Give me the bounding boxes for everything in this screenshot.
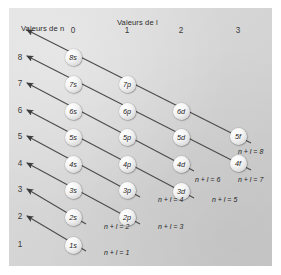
- orbital-label: 8s: [69, 53, 77, 62]
- orbital-node-3p[interactable]: 3p: [119, 182, 136, 199]
- diagonal-arrow-nl5: [27, 110, 194, 198]
- orbital-label: 4s: [69, 160, 77, 169]
- vertical-axis-title: Valeurs de n: [21, 24, 64, 33]
- orbital-node-4s[interactable]: 4s: [65, 156, 82, 173]
- row-header-8: 8: [14, 53, 26, 62]
- orbital-label: 5s: [69, 133, 77, 142]
- row-header-4: 4: [14, 159, 26, 168]
- nl-sum-label-4: n + l = 4: [158, 196, 183, 203]
- aufbau-diagram-figure: Valeurs de n Valeurs de l 0 1 2 3 8 7 6 …: [0, 0, 281, 275]
- orbital-label: 3p: [123, 186, 131, 195]
- orbital-node-8s[interactable]: 8s: [65, 49, 82, 66]
- orbital-node-6p[interactable]: 6p: [119, 103, 136, 120]
- row-header-5: 5: [14, 132, 26, 141]
- orbital-label: 2s: [69, 213, 77, 222]
- orbital-node-1s[interactable]: 1s: [65, 237, 82, 254]
- orbital-node-6d[interactable]: 6d: [173, 103, 190, 120]
- nl-sum-label-8: n + l = 8: [238, 148, 263, 155]
- diagonal-arrow-group: [27, 30, 251, 251]
- diagonal-arrow-nl7: [27, 56, 251, 170]
- orbital-label: 7p: [123, 80, 131, 89]
- nl-sum-label-2: n + l = 2: [104, 223, 129, 230]
- orbital-node-5d[interactable]: 5d: [173, 129, 190, 146]
- nl-sum-label-6: n + l = 6: [195, 176, 220, 183]
- orbital-label: 4d: [177, 160, 185, 169]
- orbital-label: 2p: [123, 213, 131, 222]
- orbital-node-4p[interactable]: 4p: [119, 156, 136, 173]
- orbital-label: 1s: [69, 241, 77, 250]
- orbital-node-5s[interactable]: 5s: [65, 129, 82, 146]
- orbital-label: 4f: [235, 159, 241, 168]
- orbital-label: 3d: [177, 187, 185, 196]
- row-header-2: 2: [14, 212, 26, 221]
- column-header-3: 3: [231, 26, 245, 35]
- row-header-1: 1: [14, 240, 26, 249]
- orbital-node-4d[interactable]: 4d: [173, 156, 190, 173]
- orbital-label: 5p: [123, 133, 131, 142]
- orbital-node-2s[interactable]: 2s: [65, 209, 82, 226]
- orbital-node-4f[interactable]: 4f: [230, 155, 247, 172]
- orbital-label: 7s: [69, 80, 77, 89]
- row-header-3: 3: [14, 185, 26, 194]
- column-header-2: 2: [174, 26, 188, 35]
- orbital-node-7p[interactable]: 7p: [119, 76, 136, 93]
- nl-sum-label-3: n + l = 3: [158, 223, 183, 230]
- row-header-6: 6: [14, 106, 26, 115]
- diagonal-arrow-nl8: [27, 30, 251, 143]
- diagonal-arrow-nl6: [27, 83, 194, 171]
- column-header-1: 1: [120, 26, 134, 35]
- nl-sum-label-7: n + l = 7: [238, 176, 263, 183]
- orbital-node-5f[interactable]: 5f: [230, 128, 247, 145]
- orbital-node-7s[interactable]: 7s: [65, 76, 82, 93]
- nl-sum-label-1: n + l = 1: [104, 249, 129, 256]
- orbital-node-3s[interactable]: 3s: [65, 182, 82, 199]
- orbital-label: 3s: [69, 186, 77, 195]
- orbital-label: 6d: [177, 107, 185, 116]
- orbital-label: 4p: [123, 160, 131, 169]
- nl-sum-label-5: n + l = 5: [212, 196, 237, 203]
- orbital-label: 6s: [69, 107, 77, 116]
- column-header-0: 0: [66, 26, 80, 35]
- row-header-7: 7: [14, 79, 26, 88]
- orbital-label: 6p: [123, 107, 131, 116]
- orbital-label: 5f: [235, 132, 241, 141]
- orbital-label: 5d: [177, 133, 185, 142]
- orbital-node-5p[interactable]: 5p: [119, 129, 136, 146]
- orbital-node-6s[interactable]: 6s: [65, 103, 82, 120]
